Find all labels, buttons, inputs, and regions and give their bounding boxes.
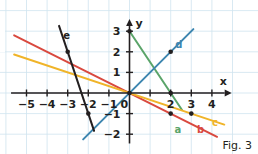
curve-label-c: c bbox=[212, 118, 218, 128]
series-group bbox=[14, 26, 224, 140]
x-tick-label: −4 bbox=[39, 99, 56, 110]
origin-label: 0 bbox=[121, 99, 129, 110]
x-tick-label: 4 bbox=[208, 99, 216, 110]
data-point[interactable] bbox=[86, 111, 91, 116]
curve-label-d: d bbox=[175, 40, 182, 50]
curve-label-b: b bbox=[197, 125, 204, 135]
x-axis-arrow bbox=[225, 90, 232, 97]
y-tick-label: 2 bbox=[113, 47, 121, 58]
figure-container: Fig. 3 −5−4−3−2−1234321−1−20xyabcde bbox=[0, 0, 258, 154]
data-point[interactable] bbox=[168, 111, 173, 116]
data-point[interactable] bbox=[189, 111, 194, 116]
figure-caption: Fig. 3 bbox=[222, 139, 252, 152]
x-tick-label: −5 bbox=[18, 99, 35, 110]
x-tick-label: 3 bbox=[187, 99, 195, 110]
y-axis-label: y bbox=[136, 18, 143, 29]
y-tick-label: −2 bbox=[104, 129, 121, 140]
curve-label-a: a bbox=[175, 125, 182, 135]
x-axis-label: x bbox=[220, 76, 227, 87]
y-axis-arrow bbox=[126, 19, 133, 26]
data-point[interactable] bbox=[127, 91, 132, 96]
curve-label-e: e bbox=[63, 31, 70, 41]
data-point[interactable] bbox=[65, 50, 70, 55]
x-tick-label: −3 bbox=[59, 99, 76, 110]
x-tick-label: 2 bbox=[167, 99, 175, 110]
y-tick-label: 1 bbox=[113, 67, 121, 78]
x-tick-label: −2 bbox=[80, 99, 97, 110]
data-point[interactable] bbox=[127, 29, 132, 34]
data-point[interactable] bbox=[168, 50, 173, 55]
y-tick-label: 3 bbox=[113, 26, 121, 37]
page-edge-artifact bbox=[0, 26, 5, 52]
data-point[interactable] bbox=[168, 91, 173, 96]
y-tick-label: −1 bbox=[104, 109, 121, 120]
